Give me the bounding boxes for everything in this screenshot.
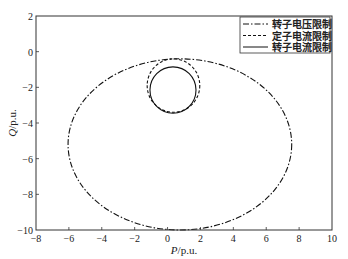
y-tick-label: −8 — [22, 189, 33, 200]
y-tick-label: −10 — [17, 225, 33, 236]
legend-label: 转子电压限制 — [272, 18, 332, 30]
series-curve-2 — [150, 67, 196, 113]
x-tick-label: 6 — [264, 233, 269, 244]
y-tick-label: 2 — [28, 11, 33, 22]
x-tick-label: 8 — [297, 233, 302, 244]
x-tick-label: 4 — [231, 233, 236, 244]
x-tick-label: 0 — [165, 233, 170, 244]
legend-label: 转子电流限制 — [272, 41, 332, 53]
legend: 转子电压限制定子电流限制转子电流限制 — [240, 17, 332, 53]
y-axis-label: Q/p.u. — [6, 109, 18, 137]
x-axis-label: P/p.u. — [170, 244, 198, 256]
x-tick-label: −2 — [129, 233, 140, 244]
y-tick-label: −6 — [22, 154, 33, 165]
legend-label: 定子电流限制 — [272, 30, 332, 42]
chart: −8−6−4−2024681020−2−4−6−8−10 P/p.u. Q/p.… — [0, 0, 348, 259]
series-curve-0 — [68, 59, 292, 230]
x-tick-label: −4 — [96, 233, 107, 244]
plot-curves — [68, 59, 292, 230]
x-tick-label: −6 — [64, 233, 75, 244]
y-tick-label: 0 — [28, 47, 33, 58]
y-tick-label: −2 — [22, 82, 33, 93]
x-tick-label: 10 — [327, 233, 337, 244]
y-tick-label: −4 — [22, 118, 33, 129]
x-tick-label: 2 — [198, 233, 203, 244]
